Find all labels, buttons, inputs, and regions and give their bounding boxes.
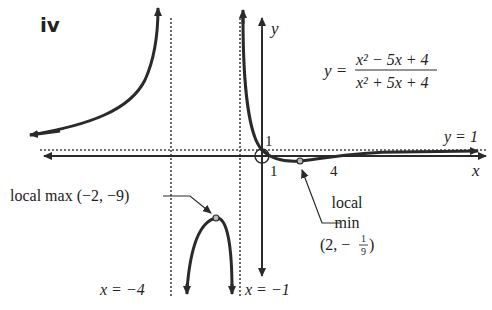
y-intercept-label: 1 — [265, 133, 273, 149]
x-axis-label: x — [471, 161, 480, 180]
equation-numerator: x² − 5x + 4 — [355, 51, 429, 68]
x-intercept-label-4: 4 — [330, 163, 338, 179]
local-max-point — [213, 215, 219, 221]
graph-canvas: iv y x y = x² − 5x + 4 x² + 5x + 4 y = 1… — [0, 0, 492, 310]
y-axis-label: y — [269, 19, 279, 38]
local-min-point — [297, 158, 303, 164]
panel-label: iv — [40, 13, 60, 37]
vertical-asymptote-label-x-minus-4: x = −4 — [99, 281, 145, 298]
local-min-coords-prefix: (2, − — [320, 236, 350, 254]
local-min-label-line1: local — [331, 194, 363, 211]
equation-denominator: x² + 5x + 4 — [355, 74, 429, 91]
x-intercept-label-1: 1 — [270, 163, 278, 179]
graph-figure: iv y x y = x² − 5x + 4 x² + 5x + 4 y = 1… — [0, 0, 492, 310]
curve-left-branch-arrow — [30, 131, 60, 135]
local-min-frac-num: 1 — [361, 233, 366, 244]
local-max-label: local max (−2, −9) — [10, 187, 129, 205]
horizontal-asymptote-label: y = 1 — [442, 128, 478, 146]
curve-middle-branch — [187, 218, 232, 290]
equation-lhs: y = — [322, 61, 347, 80]
local-min-frac-den: 9 — [361, 246, 366, 257]
local-min-label-line2: min — [335, 214, 360, 231]
vertical-asymptote-label-x-minus-1: x = −1 — [244, 281, 290, 298]
local-min-coords-suffix: ) — [369, 236, 374, 254]
